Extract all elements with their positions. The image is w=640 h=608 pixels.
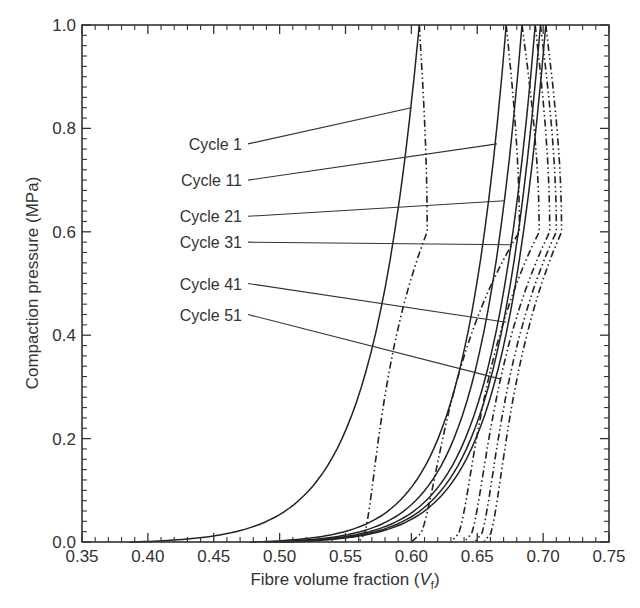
leader-lines <box>248 108 512 379</box>
leader-line <box>248 315 501 380</box>
unloading-curve <box>359 25 428 542</box>
x-tick-label: 0.70 <box>527 547 560 566</box>
loading-curve <box>273 25 535 542</box>
y-tick-label: 0.2 <box>52 430 76 449</box>
y-tick-label: 0.4 <box>52 326 76 345</box>
x-tick-label: 0.40 <box>131 547 164 566</box>
x-tick-label: 0.50 <box>263 547 296 566</box>
y-tick-label: 1.0 <box>52 16 76 35</box>
leader-line <box>248 108 411 144</box>
y-tick-label: 0.0 <box>52 533 76 552</box>
cycle-label: Cycle 1 <box>189 136 242 153</box>
loading-curve <box>280 25 541 542</box>
cycle-label: Cycle 21 <box>180 208 242 225</box>
y-axis-title: Compaction pressure (MPa) <box>23 177 42 390</box>
x-tick-label: 0.45 <box>197 547 230 566</box>
cycle-label: Cycle 11 <box>181 172 242 189</box>
leader-line <box>248 201 505 217</box>
leader-line <box>248 242 512 245</box>
cycle-label: Cycle 51 <box>180 307 242 324</box>
leader-line <box>248 144 497 180</box>
loading-curve <box>129 25 419 542</box>
loading-curve <box>251 25 507 542</box>
y-tick-label: 0.6 <box>52 223 76 242</box>
compaction-chart: Cycle 1Cycle 11Cycle 21Cycle 31Cycle 41C… <box>0 0 640 608</box>
x-tick-label: 0.55 <box>329 547 362 566</box>
plot-frame <box>82 25 609 542</box>
y-axis-ticks: 0.00.20.40.60.81.0 <box>52 16 609 552</box>
cycle-label: Cycle 31 <box>180 234 242 251</box>
x-tick-label: 0.60 <box>395 547 428 566</box>
y-tick-label: 0.8 <box>52 119 76 138</box>
x-tick-label: 0.65 <box>461 547 494 566</box>
x-axis-ticks: 0.350.400.450.500.550.600.650.700.75 <box>65 25 625 566</box>
x-axis-title: Fibre volume fraction (Vf) <box>250 570 439 591</box>
cycle-labels: Cycle 1Cycle 11Cycle 21Cycle 31Cycle 41C… <box>180 136 242 324</box>
leader-line <box>248 284 506 323</box>
x-tick-label: 0.75 <box>592 547 625 566</box>
cycle-label: Cycle 41 <box>180 276 242 293</box>
loading-curve <box>284 25 546 542</box>
loading-curve <box>267 25 523 542</box>
